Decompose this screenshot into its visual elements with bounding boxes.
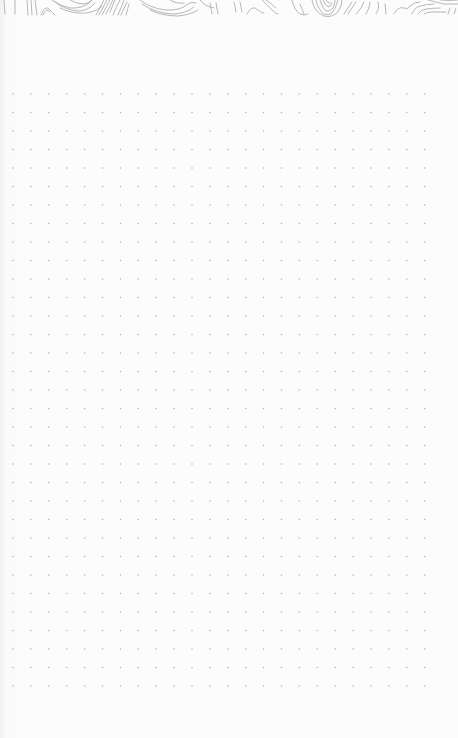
notebook-page [0, 0, 458, 738]
dot-grid [0, 0, 458, 738]
